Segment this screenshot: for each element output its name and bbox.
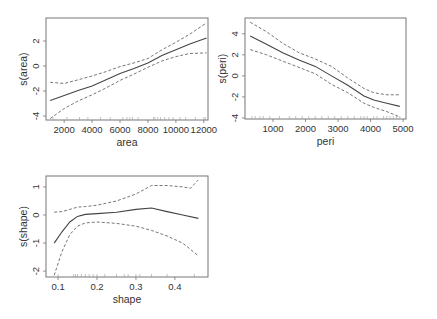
panel-shape: 0.10.20.30.4-2-101shapes(shape)	[17, 176, 208, 305]
x-tick-label: 1000	[262, 123, 283, 134]
panel-peri: 10002000300040005000-4-2024peris(peri)	[216, 18, 414, 147]
y-tick-label: 2	[30, 38, 41, 43]
y-axis-label: s(area)	[17, 52, 29, 85]
x-tick-label: 4000	[360, 123, 381, 134]
y-tick-label: -1	[30, 239, 41, 247]
y-tick-label: -4	[229, 114, 240, 122]
x-axis-label: area	[116, 136, 137, 148]
y-tick-label: 1	[30, 184, 41, 189]
y-tick-label: 4	[229, 31, 240, 36]
x-tick-label: 0.3	[129, 281, 142, 292]
x-tick-label: 3000	[327, 123, 348, 134]
x-tick-label: 2000	[54, 124, 75, 135]
x-tick-label: 5000	[393, 123, 414, 134]
plot-frame	[46, 18, 208, 120]
y-tick-label: -2	[30, 87, 41, 95]
y-tick-label: 0	[30, 212, 41, 217]
y-axis-label: s(shape)	[17, 206, 29, 247]
y-axis-label: s(peri)	[216, 54, 228, 84]
gam-smooth-plots: 20004000600080001000012000-4-202areas(ar…	[0, 0, 437, 319]
y-tick-label: -2	[229, 93, 240, 101]
lower-curve	[54, 222, 198, 275]
lower-curve	[250, 50, 400, 117]
x-tick-label: 2000	[295, 123, 316, 134]
fit-curve	[250, 36, 400, 107]
y-tick-label: 2	[229, 52, 240, 57]
upper-curve	[54, 180, 198, 212]
y-tick-label: -4	[30, 112, 41, 120]
upper-curve	[250, 22, 400, 95]
panel-area: 20004000600080001000012000-4-202areas(ar…	[17, 18, 217, 148]
fit-curve	[54, 208, 198, 243]
upper-curve	[50, 23, 206, 84]
x-axis-label: shape	[113, 293, 142, 305]
x-tick-label: 0.4	[168, 281, 181, 292]
x-axis-label: peri	[317, 135, 335, 147]
plot-frame	[46, 176, 208, 277]
x-tick-label: 0.2	[90, 281, 103, 292]
y-tick-label: 0	[229, 73, 240, 78]
fit-curve	[50, 38, 206, 101]
x-tick-label: 10000	[163, 124, 189, 135]
x-tick-label: 4000	[82, 124, 103, 135]
y-tick-label: -2	[30, 267, 41, 275]
x-tick-label: 0.1	[51, 281, 64, 292]
lower-curve	[50, 53, 206, 119]
x-tick-label: 8000	[137, 124, 158, 135]
x-tick-label: 6000	[109, 124, 130, 135]
y-tick-label: 0	[30, 63, 41, 68]
x-tick-label: 12000	[191, 124, 217, 135]
